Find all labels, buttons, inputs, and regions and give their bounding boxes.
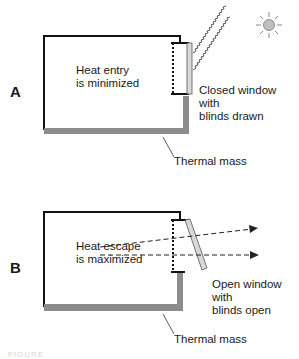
thermal-mass-b-label: Thermal mass — [174, 333, 247, 346]
blinds-drawn-a — [187, 43, 192, 94]
thermal-mass-a-label: Thermal mass — [174, 155, 247, 168]
room-a-label: Heat entry is minimized — [76, 64, 139, 90]
panel-letter-b: B — [10, 259, 21, 276]
thermal-mass-b-leader — [163, 314, 174, 334]
figure-caption: FIGURE — [8, 350, 44, 359]
blinds-open-b — [185, 219, 207, 270]
panel-letter-a: A — [10, 83, 21, 100]
sun-icon — [256, 12, 282, 38]
room-b-label: Heat escape is maximized — [76, 240, 142, 266]
thermal-mass-b — [44, 273, 183, 311]
thermal-mass-a — [44, 96, 189, 134]
window-b-label: Open window with blinds open — [212, 278, 282, 317]
thermal-mass-a-leader — [163, 137, 174, 157]
window-a-label: Closed window with blinds drawn — [199, 84, 276, 123]
